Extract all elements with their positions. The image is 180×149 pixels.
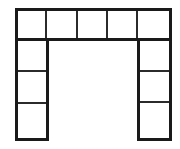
cell-right-3[interactable] — [138, 102, 170, 139]
cell-left-3[interactable] — [16, 103, 47, 139]
cell-right-2[interactable] — [138, 71, 170, 102]
cell-left-2[interactable] — [16, 71, 47, 103]
diagram-canvas — [0, 0, 180, 149]
courtyard-area — [47, 39, 138, 139]
cell-top-1[interactable] — [16, 9, 46, 39]
cell-fills — [16, 9, 170, 139]
cell-left-1[interactable] — [16, 39, 47, 71]
cell-top-2[interactable] — [46, 9, 77, 39]
cell-top-4[interactable] — [107, 9, 137, 39]
u-shape-layout-diagram — [0, 0, 180, 149]
cell-top-5[interactable] — [137, 9, 170, 39]
cell-right-1[interactable] — [138, 39, 170, 71]
cell-top-3[interactable] — [77, 9, 107, 39]
